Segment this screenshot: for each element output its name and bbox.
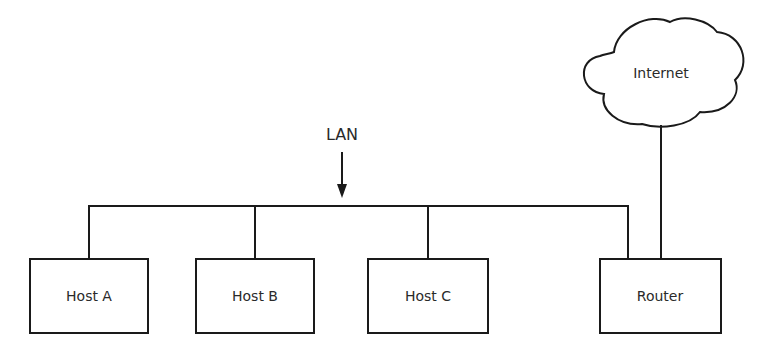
host-a-label: Host A [66,288,112,304]
arrow-head-icon [337,184,347,198]
internet-label: Internet [633,65,689,81]
host-b-label: Host B [232,288,278,304]
host-c-label: Host C [405,288,451,304]
lan-bus [89,206,628,259]
router-label: Router [637,288,684,304]
lan-label: LAN [326,125,358,144]
network-diagram: LAN Internet Host A Host B Host C Router [0,0,771,356]
diagram-svg: LAN Internet Host A Host B Host C Router [0,0,771,356]
